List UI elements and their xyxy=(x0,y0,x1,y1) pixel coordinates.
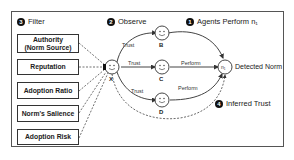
step-inferred-trust-label: Inferred Trust xyxy=(226,99,271,108)
step-inferred-trust: 4 Inferred Trust xyxy=(215,99,271,108)
filter-norms-salience: Norm's Salience xyxy=(17,105,79,122)
agent-c-icon xyxy=(155,60,169,74)
agent-b-icon xyxy=(155,26,169,40)
node-label-b: B xyxy=(159,42,163,48)
step-filter-label: Filter xyxy=(28,17,45,26)
filter-authority: Authority (Norm Source) xyxy=(17,34,79,53)
edge-label-perform-c: Perform xyxy=(181,60,201,66)
edge-label-perform-d: Perform xyxy=(178,85,198,91)
step-observe: 2 Observe xyxy=(107,17,146,26)
step-agents-perform-label: Agents Perform n₁ xyxy=(197,17,258,26)
filter-adoption-risk: Adoption Risk xyxy=(17,129,79,145)
edge-label-trust-c: Trust xyxy=(128,60,140,66)
step-number-badge: 2 xyxy=(107,18,115,26)
edge-label-trust-b: Trust xyxy=(122,42,134,48)
step-filter: 3 Filter xyxy=(17,17,45,26)
step-observe-label: Observe xyxy=(118,17,146,26)
filter-adoption-ratio: Adoption Ratio xyxy=(17,82,79,99)
node-label-d: D xyxy=(159,109,163,115)
node-label-c: C xyxy=(159,76,163,82)
step-number-badge: 3 xyxy=(17,18,25,26)
step-number-badge: 1 xyxy=(186,18,194,26)
norm-node-label: n₁ xyxy=(221,64,225,70)
detected-norm-label: Detected Norm xyxy=(235,63,282,70)
agent-d-icon xyxy=(155,93,169,107)
step-number-badge: 4 xyxy=(215,100,223,108)
filter-reputation: Reputation xyxy=(17,59,79,75)
step-agents-perform: 1 Agents Perform n₁ xyxy=(186,17,258,26)
agent-x-icon xyxy=(103,60,119,74)
node-label-x: X xyxy=(109,76,113,82)
edge-label-trust-d: Trust xyxy=(131,88,143,94)
